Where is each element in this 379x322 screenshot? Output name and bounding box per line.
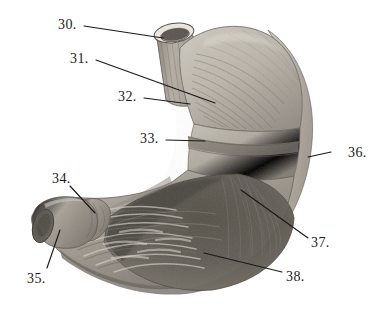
stomach-illustration [0, 0, 379, 322]
label-31: 31. [70, 52, 89, 66]
label-33: 33. [140, 132, 159, 146]
label-32: 32. [118, 90, 137, 104]
label-30: 30. [58, 18, 77, 32]
leader-line-30 [84, 26, 163, 38]
label-36: 36. [348, 146, 367, 160]
label-34: 34. [52, 172, 71, 186]
label-38: 38. [286, 270, 305, 284]
figure-canvas: 30.31.32.33.34.35.36.37.38. [0, 0, 379, 322]
leader-line-36 [308, 152, 331, 157]
label-35: 35. [27, 272, 46, 286]
paper-grain [0, 0, 379, 322]
label-37: 37. [311, 236, 330, 250]
